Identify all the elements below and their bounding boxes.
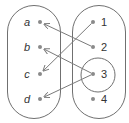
label-b: b (24, 41, 30, 53)
point-4 (91, 97, 95, 101)
label-3: 3 (101, 68, 107, 80)
arrow-3-to-b (44, 49, 91, 73)
label-d: d (24, 93, 31, 105)
point-2 (91, 45, 95, 49)
point-a (38, 20, 42, 24)
highlight-circle (81, 58, 115, 92)
label-a: a (24, 16, 30, 28)
mapping-diagram: abcd1234 (0, 0, 129, 123)
point-b (38, 45, 42, 49)
arrow-3-to-d (45, 75, 92, 97)
label-c: c (24, 68, 30, 80)
arrow-1-to-c (44, 23, 92, 70)
right-set-oval (73, 6, 126, 119)
point-1 (91, 20, 95, 24)
point-d (38, 97, 42, 101)
point-c (38, 72, 42, 76)
label-2: 2 (101, 41, 107, 53)
label-1: 1 (101, 16, 107, 28)
label-4: 4 (101, 93, 107, 105)
point-3 (91, 72, 95, 76)
arrow-2-to-a (45, 24, 92, 46)
